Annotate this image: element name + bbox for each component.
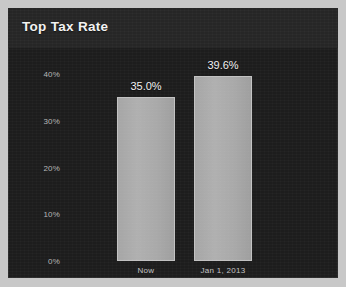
chart-panel: Top Tax Rate 0%10%20%30%40%35.0%Now39.6%…	[8, 8, 338, 278]
bar-2	[194, 76, 252, 261]
x-axis-category-label: Now	[138, 266, 155, 275]
x-axis-category-label: Jan 1, 2013	[200, 266, 245, 275]
y-axis-tick-label: 0%	[20, 257, 60, 266]
bar-value-label: 35.0%	[130, 80, 161, 92]
y-axis-tick-label: 10%	[20, 210, 60, 219]
y-axis-tick-label: 20%	[20, 163, 60, 172]
bar-value-label: 39.6%	[207, 59, 238, 71]
plot-area: 0%10%20%30%40%35.0%Now39.6%Jan 1, 2013	[8, 48, 338, 278]
bar-1	[117, 97, 175, 261]
y-axis-tick-label: 30%	[20, 116, 60, 125]
chart-title: Top Tax Rate	[22, 19, 108, 34]
y-axis-tick-label: 40%	[20, 70, 60, 79]
screenshot-root: Top Tax Rate 0%10%20%30%40%35.0%Now39.6%…	[0, 0, 346, 287]
